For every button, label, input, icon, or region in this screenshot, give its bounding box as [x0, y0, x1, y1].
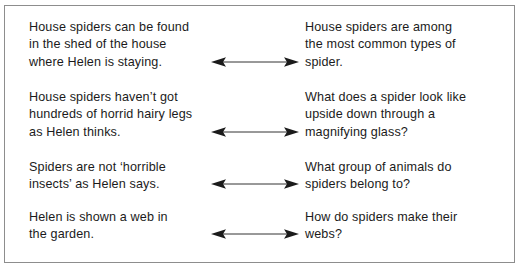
statement-line: the garden. — [29, 226, 209, 243]
question-text: What does a spider look likeupside down … — [305, 89, 495, 141]
statement-line: in the shed of the house — [29, 36, 209, 53]
double-headed-arrow-icon — [209, 55, 301, 69]
statement-line: as Helen thinks. — [29, 124, 209, 141]
question-line: spiders belong to? — [305, 176, 495, 193]
statement-line: House spiders can be found — [29, 19, 209, 36]
double-headed-arrow-icon — [209, 125, 301, 139]
pair-row[interactable]: House spiders haven’t gothundreds of hor… — [5, 89, 514, 141]
double-headed-arrow-icon — [209, 177, 301, 191]
statement-line: insects’ as Helen says. — [29, 176, 209, 193]
question-line: How do spiders make their — [305, 209, 495, 226]
question-text: House spiders are amongthe most common t… — [305, 19, 495, 71]
arrow-cell — [209, 159, 301, 194]
arrow-cell — [209, 19, 301, 71]
question-line: What does a spider look like — [305, 89, 495, 106]
arrow-cell — [209, 89, 301, 141]
pair-row[interactable]: Helen is shown a web inthe garden.How do… — [5, 209, 514, 244]
question-line: What group of animals do — [305, 159, 495, 176]
statement-text: House spiders can be foundin the shed of… — [29, 19, 209, 71]
pair-row[interactable]: House spiders can be foundin the shed of… — [5, 19, 514, 71]
arrow-cell — [209, 209, 301, 244]
question-line: House spiders are among — [305, 19, 495, 36]
statement-text: House spiders haven’t gothundreds of hor… — [29, 89, 209, 141]
question-line: upside down through a — [305, 106, 495, 123]
question-line: the most common types of — [305, 36, 495, 53]
statement-line: Spiders are not ‘horrible — [29, 159, 209, 176]
question-text: How do spiders make theirwebs? — [305, 209, 495, 244]
clipped-text-above-box: · · · · · · · — [0, 0, 520, 4]
statement-line: Helen is shown a web in — [29, 209, 209, 226]
statement-line: hundreds of horrid hairy legs — [29, 106, 209, 123]
question-line: spider. — [305, 54, 495, 71]
double-headed-arrow-icon — [209, 227, 301, 241]
statement-line: where Helen is staying. — [29, 54, 209, 71]
statement-line: House spiders haven’t got — [29, 89, 209, 106]
matching-exercise-box: House spiders can be foundin the shed of… — [4, 5, 515, 263]
clipped-text-fragment: · · · · · · · — [0, 0, 44, 3]
statement-text: Spiders are not ‘horribleinsects’ as Hel… — [29, 159, 209, 194]
question-line: magnifying glass? — [305, 124, 495, 141]
statement-text: Helen is shown a web inthe garden. — [29, 209, 209, 244]
pair-row[interactable]: Spiders are not ‘horribleinsects’ as Hel… — [5, 159, 514, 194]
question-text: What group of animals dospiders belong t… — [305, 159, 495, 194]
question-line: webs? — [305, 226, 495, 243]
